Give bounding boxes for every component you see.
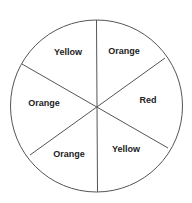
section-label: Orange	[28, 98, 60, 108]
section-label: Orange	[108, 46, 140, 56]
section-label: Red	[139, 95, 156, 105]
section-label: Yellow	[112, 144, 141, 154]
section-label: Orange	[53, 149, 85, 159]
section-label: Yellow	[54, 47, 83, 57]
spinner-diagram: Orange Red Yellow Orange Orange Yellow	[0, 0, 192, 203]
